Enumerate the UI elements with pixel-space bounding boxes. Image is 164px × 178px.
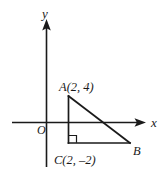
vertex-b-label: B	[133, 144, 141, 158]
right-angle-marker-icon	[69, 136, 77, 143]
x-axis-label: x	[150, 115, 157, 130]
segment-ab	[69, 96, 131, 143]
y-axis-label: y	[40, 6, 48, 21]
vertex-a-label: A(2, 4)	[58, 80, 94, 94]
vertex-c-label: C(2, –2)	[54, 153, 96, 167]
origin-label: O	[37, 123, 46, 137]
figure-canvas: y x O A(2, 4) B C(2, –2)	[0, 0, 164, 178]
coordinate-plane-figure: y x O A(2, 4) B C(2, –2)	[0, 0, 164, 178]
